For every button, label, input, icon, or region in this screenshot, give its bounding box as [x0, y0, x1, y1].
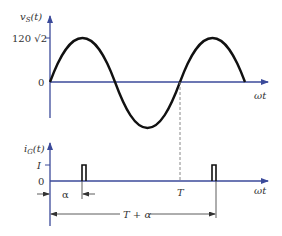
top-zero-label: 0 [38, 77, 44, 88]
bottom-plot: iG(t) I 0 T ωt α T + α [24, 143, 268, 226]
t-plus-alpha-label: T + α [123, 209, 151, 220]
period-label: T [177, 187, 185, 198]
gate-pulse-1 [82, 165, 86, 181]
bottom-y-label: iG(t) [24, 143, 45, 156]
gate-pulse-2 [212, 165, 216, 181]
top-plot: vS(t) 120 √2 0 ωt [12, 11, 268, 128]
diagram: vS(t) 120 √2 0 ωt iG(t) I 0 T ωt α T + α [0, 0, 282, 236]
peak-label: 120 √2 [12, 33, 47, 44]
sine-curve [50, 38, 245, 128]
bottom-x-label: ωt [254, 185, 267, 196]
level-label: I [36, 160, 42, 171]
top-y-label: vS(t) [20, 11, 42, 24]
top-x-label: ωt [254, 90, 267, 101]
alpha-label: α [62, 189, 69, 200]
bottom-zero-label: 0 [38, 176, 44, 187]
